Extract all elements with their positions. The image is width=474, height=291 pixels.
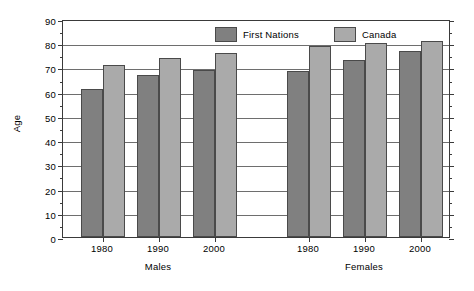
y-axis-tick [58,118,63,119]
y-axis-tick-label: 60 [45,88,56,99]
y-axis-tick [58,21,63,22]
y-axis-minor-tick [60,33,63,34]
y-axis-title: Age [11,94,22,154]
bar [215,53,237,237]
y-axis-minor-tick [60,106,63,107]
y-axis-tick [58,239,63,240]
y-axis-tick-right [449,239,454,240]
legend-swatch [215,27,237,42]
x-axis-group-label-females: Females [345,261,383,272]
y-axis-minor-tick [60,57,63,58]
y-axis-tick-label: 70 [45,64,56,75]
y-axis-minor-tick-right [449,178,452,179]
x-axis-group-label-males: Males [145,261,171,272]
bar [287,71,309,237]
bar [103,65,125,237]
y-axis-tick-right [449,118,454,119]
y-axis-minor-tick-right [449,130,452,131]
y-axis-minor-tick-right [449,106,452,107]
x-axis-tick-label: 1990 [147,243,169,254]
x-axis-tick [159,237,160,242]
x-axis-tick-label: 1980 [91,243,113,254]
bar [343,60,365,237]
legend-entry: First Nations [215,27,299,42]
bar [421,41,443,237]
legend-label: First Nations [243,29,299,40]
plot-area: 0102030405060708090First NationsCanada [62,20,450,238]
x-axis-tick [215,237,216,242]
y-axis-tick [58,45,63,46]
bar [137,75,159,237]
y-axis-tick-right [449,191,454,192]
x-axis-tick [365,237,366,242]
x-axis-tick-label: 1980 [297,243,319,254]
y-axis-tick [58,215,63,216]
bar [365,43,387,237]
x-axis-tick-label: 1990 [353,243,375,254]
y-axis-tick-label: 20 [45,185,56,196]
y-axis-tick-right [449,166,454,167]
y-axis-minor-tick [60,203,63,204]
y-axis-minor-tick [60,130,63,131]
y-axis-minor-tick-right [449,203,452,204]
legend-swatch [334,27,356,42]
y-axis-tick-label: 90 [45,16,56,27]
y-axis-tick-label: 80 [45,40,56,51]
x-axis-tick [103,237,104,242]
y-axis-minor-tick-right [449,33,452,34]
x-axis-tick-label: 2000 [409,243,431,254]
y-axis-tick-right [449,69,454,70]
bar [193,70,215,237]
bar [159,58,181,237]
y-axis-minor-tick-right [449,82,452,83]
y-axis-tick-label: 10 [45,209,56,220]
y-axis-tick-label: 50 [45,112,56,123]
x-axis-tick [309,237,310,242]
y-axis-minor-tick [60,227,63,228]
bar [309,46,331,237]
y-axis-tick-label: 30 [45,161,56,172]
y-axis-tick-right [449,94,454,95]
y-axis-minor-tick [60,178,63,179]
y-axis-tick-right [449,45,454,46]
gridline [63,45,449,46]
y-axis-minor-tick-right [449,227,452,228]
y-axis-tick-right [449,142,454,143]
y-axis-tick [58,94,63,95]
y-axis-tick [58,142,63,143]
y-axis-minor-tick [60,154,63,155]
x-axis-tick [421,237,422,242]
y-axis-tick-right [449,21,454,22]
y-axis-minor-tick [60,82,63,83]
y-axis-tick [58,166,63,167]
legend-entry: Canada [334,27,396,42]
legend-label: Canada [362,29,396,40]
y-axis-tick [58,191,63,192]
y-axis-minor-tick-right [449,57,452,58]
y-axis-tick [58,69,63,70]
x-axis-tick-label: 2000 [203,243,225,254]
bar [81,89,103,237]
y-axis-minor-tick-right [449,154,452,155]
y-axis-tick-label: 40 [45,137,56,148]
bar-chart: Age 0102030405060708090First NationsCana… [0,0,474,291]
y-axis-tick-right [449,215,454,216]
y-axis-tick-label: 0 [51,234,56,245]
bar [399,51,421,238]
